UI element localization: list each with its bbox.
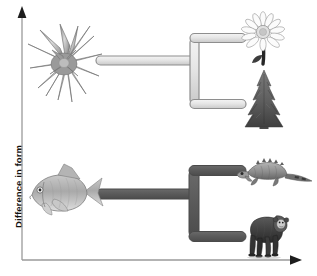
iguana-lizard-icon <box>237 158 312 186</box>
plant-clade-branches <box>96 34 246 109</box>
fish-icon <box>30 164 103 215</box>
y-axis <box>18 6 27 260</box>
vertebrate-branch-to-chimp <box>189 232 246 242</box>
plant-node-connector <box>190 38 199 104</box>
conifer-tree-icon <box>245 70 283 129</box>
right-arrow-icon <box>290 255 302 265</box>
plant-ancestor-branch <box>96 56 196 65</box>
plant-branch-to-flower <box>190 34 246 43</box>
plant-branch-to-conifer <box>190 100 246 109</box>
vertebrate-clade-branches <box>96 166 246 242</box>
chimpanzee-icon <box>247 216 289 259</box>
up-arrow-icon <box>18 6 27 18</box>
daisy-flower-icon <box>241 12 285 64</box>
vertebrate-ancestor-branch <box>96 189 196 199</box>
evolution-divergence-figure: Difference in form <box>0 0 317 276</box>
vertebrate-node-connector <box>189 170 199 237</box>
figure-graphics <box>0 0 317 276</box>
rosette-plant-icon <box>28 24 102 102</box>
